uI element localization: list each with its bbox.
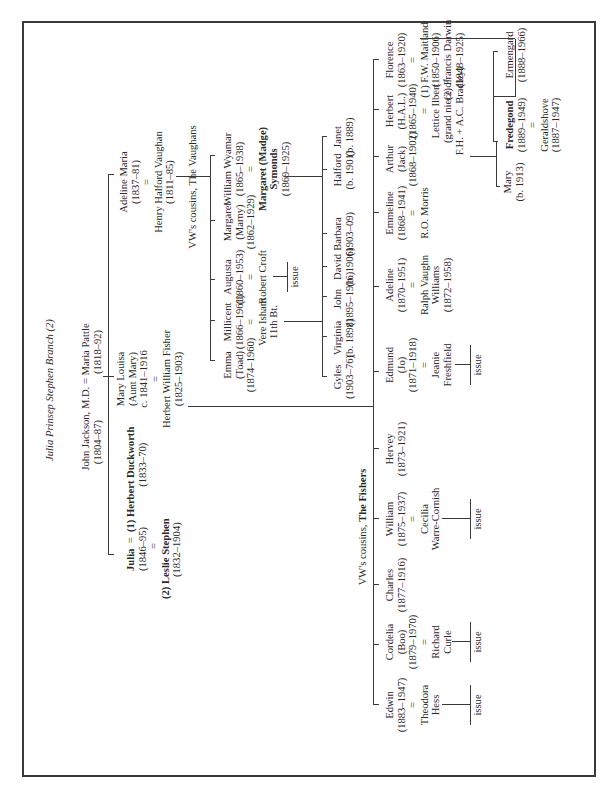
tick bbox=[322, 376, 327, 377]
tick bbox=[496, 186, 500, 187]
page-title: Julia Prinsep Stephen Branch (2) bbox=[44, 319, 56, 461]
fisher-edmund: Edmund (Jo) (1871–1918) = Jeanie Freshfi… bbox=[384, 338, 454, 393]
issue-connector bbox=[442, 518, 470, 519]
herbert-connector bbox=[470, 156, 496, 157]
issue-line bbox=[470, 622, 471, 662]
tick bbox=[373, 212, 379, 213]
vaughan-margaret: Margaret (Marny) (1862–1929) bbox=[222, 195, 257, 250]
vaughan-bracket bbox=[210, 156, 211, 361]
vaughans-heading: VW's cousins, The Vaughans bbox=[187, 125, 199, 248]
tick bbox=[210, 220, 215, 221]
vaughan-connector bbox=[176, 176, 210, 177]
tick bbox=[373, 59, 379, 60]
marylouisa-tick bbox=[108, 376, 114, 377]
root-couple: John Jackson, M.D. = Maria Pattle (1804–… bbox=[80, 323, 103, 470]
tick bbox=[322, 233, 327, 234]
wyamar-child-halford: Halford(b. 1901) bbox=[332, 151, 355, 190]
isham-connector bbox=[284, 321, 322, 322]
issue-line bbox=[470, 345, 471, 385]
edwin-issue: issue bbox=[472, 694, 483, 715]
issue-connector bbox=[442, 704, 470, 705]
tick bbox=[373, 156, 379, 157]
issue-connector bbox=[273, 276, 287, 277]
isham-child-gyles: Gyles(1903–76) bbox=[332, 355, 355, 399]
fisher-charles: Charles (1877–1916) bbox=[384, 558, 407, 613]
spouse-leslie-stephen: (2) Leslie Stephen bbox=[160, 518, 171, 599]
issue-connector bbox=[455, 364, 470, 365]
fisher-william: William (1875–1937) = Cecilia Warre-Corn… bbox=[384, 488, 442, 551]
fisher-arthur: Arthur (Jack) (1868–1902) bbox=[384, 132, 419, 187]
herbert-child-mary: Mary(b. 1913) bbox=[502, 163, 525, 202]
issue-line bbox=[470, 685, 471, 725]
tick bbox=[373, 584, 379, 585]
tick bbox=[210, 360, 215, 361]
spouse-herbert-duckworth: (1) Herbert Duckworth bbox=[125, 427, 136, 532]
fisher-connector bbox=[188, 406, 374, 407]
tick bbox=[373, 109, 379, 110]
fisher-hervey: Hervey (1873–1921) bbox=[384, 422, 407, 477]
issue-line bbox=[470, 499, 471, 539]
augusta-issue: issue bbox=[289, 266, 300, 287]
isham-child-virginia: Virginia(b. 1898) bbox=[332, 319, 355, 358]
florence-connector bbox=[420, 38, 515, 39]
tick bbox=[373, 286, 379, 287]
root-dates: (1804–87)(1818–92) bbox=[92, 323, 104, 470]
julia-tick bbox=[108, 554, 114, 555]
tick bbox=[373, 704, 379, 705]
julia-block: Julia = (1) Herbert Duckworth (1846–95)(… bbox=[125, 427, 183, 571]
adeline-tick bbox=[108, 174, 114, 175]
tick bbox=[373, 518, 379, 519]
tick bbox=[373, 644, 379, 645]
issue-connector bbox=[452, 641, 470, 642]
tick bbox=[322, 336, 327, 337]
tick bbox=[210, 279, 215, 280]
florence-child-fredegond: Fredegond (1889–1949) = Geraldshove (188… bbox=[504, 98, 562, 153]
herbert-child-line bbox=[496, 142, 497, 187]
fisher-edwin: Edwin (1883–1947) = Theodora Hess bbox=[384, 678, 442, 733]
tick bbox=[322, 136, 327, 137]
fisher-cordelia: Cordelia (Boo) (1879–1970) = Richard Cur… bbox=[384, 615, 454, 670]
wyamar-bracket bbox=[322, 137, 323, 267]
wyamar-connector bbox=[284, 176, 322, 177]
julia-name: Julia bbox=[125, 549, 136, 571]
family-tree-page: Julia Prinsep Stephen Branch (2) John Ja… bbox=[0, 0, 612, 797]
florence-child-ermengard: Ermengard(1888–1966) bbox=[504, 28, 527, 83]
isham-bracket bbox=[322, 267, 323, 377]
fisher-adeline: Adeline (1870–1951) = Ralph Vaughn Willi… bbox=[384, 255, 454, 315]
tick bbox=[322, 169, 327, 170]
tick bbox=[210, 155, 215, 156]
adeline-maria-block: Adeline Maria (1837–81) = Henry Halford … bbox=[118, 131, 176, 233]
william-issue: issue bbox=[472, 508, 483, 529]
fisher-emmeline: Emmeline (1868–1941) = R.O. Morris bbox=[384, 186, 430, 241]
issue-line bbox=[287, 262, 288, 292]
cordelia-issue: issue bbox=[472, 631, 483, 652]
mary-louisa-block: Mary Louisa (Aunt Mary) c. 1841–1916 = H… bbox=[115, 330, 185, 428]
tick bbox=[373, 371, 379, 372]
tick bbox=[210, 320, 215, 321]
edmund-issue: issue bbox=[472, 354, 483, 375]
tick bbox=[322, 296, 327, 297]
gen1-bracket bbox=[108, 175, 109, 555]
tick bbox=[493, 51, 498, 52]
root-names: John Jackson, M.D. = Maria Pattle bbox=[80, 323, 92, 470]
fishers-heading: VW's cousins, The Fishers bbox=[357, 469, 369, 586]
tick bbox=[373, 448, 379, 449]
florence-bracket bbox=[493, 52, 494, 142]
vaughan-emma: Emma (Toad) (1874–1960) bbox=[222, 338, 257, 393]
